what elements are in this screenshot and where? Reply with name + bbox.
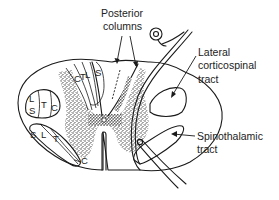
label-spinothalamic-tract: Spinothalamic tract <box>197 130 263 155</box>
lct-divider-1 <box>38 90 40 118</box>
arrow-posterior-columns-right <box>130 36 136 66</box>
svg-text:Spinothalamic: Spinothalamic <box>197 130 263 142</box>
arrowhead-pc-right <box>133 61 138 68</box>
lct-left-letters: L S T C <box>29 93 58 116</box>
svg-text:tract: tract <box>197 143 218 155</box>
label-lateral-corticospinal-tract: Lateral corticospinal tract <box>198 46 256 85</box>
svg-text:T: T <box>41 99 47 110</box>
lateral-corticospinal-tract-right <box>150 88 186 117</box>
posterior-median-septum <box>112 70 120 100</box>
arrowhead-lct <box>171 91 176 98</box>
arrowhead-stt <box>171 131 177 137</box>
svg-text:T: T <box>53 133 59 144</box>
svg-text:Lateral: Lateral <box>198 46 230 58</box>
label-posterior-columns: Posterior columns <box>101 7 144 32</box>
svg-text:S: S <box>30 129 36 140</box>
crossing-fiber-2 <box>138 144 178 188</box>
svg-text:L: L <box>29 93 34 104</box>
central-canal <box>102 118 106 122</box>
svg-text:corticospinal: corticospinal <box>198 59 256 71</box>
crossing-fiber-1 <box>142 140 186 184</box>
svg-text:C: C <box>81 155 88 166</box>
svg-text:Posterior: Posterior <box>101 7 144 19</box>
arrow-posterior-columns-left <box>117 36 122 62</box>
dorsal-root-ganglion-inner <box>154 32 159 37</box>
spinal-cord-diagram: C T L S L S T C S L T C Posterior column… <box>0 0 279 200</box>
svg-text:C: C <box>51 102 58 113</box>
svg-text:columns: columns <box>103 20 142 32</box>
dorsal-root-ganglion <box>150 28 162 40</box>
svg-text:L: L <box>41 129 46 140</box>
svg-text:L: L <box>85 69 90 80</box>
svg-text:tract: tract <box>198 73 219 85</box>
svg-text:S: S <box>29 105 35 116</box>
svg-text:S: S <box>95 67 101 78</box>
